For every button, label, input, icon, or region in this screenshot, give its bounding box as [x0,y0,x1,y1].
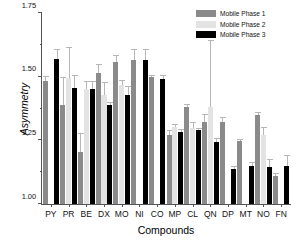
bar [273,176,278,204]
error-bar-cap [284,155,290,156]
bar [66,78,71,204]
error-bar-cap [72,75,78,76]
y-axis-tick [38,76,42,77]
error-bar [163,75,164,79]
x-axis-tick [69,204,70,207]
error-bar [287,155,288,166]
error-bar-cap [172,124,178,125]
bar [214,142,219,204]
legend-label: Mobile Phase 3 [220,31,265,38]
legend-swatch-mobile-phase-3 [196,31,216,38]
x-axis-tick [86,204,87,207]
error-bar [198,128,199,131]
legend-item: Mobile Phase 1 [196,9,265,18]
y-axis-tick [38,203,42,204]
x-axis-tick-label: QN [204,209,217,219]
x-axis-title: Compounds [42,224,290,236]
bar [255,115,260,204]
y-axis-minor-tick [40,44,42,45]
x-axis-tick-label: NO [257,209,270,219]
error-bar [80,133,81,152]
error-bar-cap [143,49,149,50]
y-axis-tick [38,12,42,13]
y-axis-title-wrap: Asymmetry [0,13,14,204]
bar [231,169,236,204]
bar [72,88,77,204]
bar [43,81,48,204]
x-axis-line [41,204,291,205]
legend: Mobile Phase 1 Mobile Phase 2 Mobile Pha… [196,9,265,41]
error-bar [216,138,217,143]
error-bar [193,122,194,128]
error-bar [210,40,211,107]
error-bar-cap [190,122,196,123]
error-bar [175,124,176,127]
bar [131,60,136,204]
bar [60,105,65,204]
error-bar [240,139,241,141]
error-bar [45,76,46,82]
x-axis-tick [51,204,52,207]
error-bar [145,49,146,60]
error-bar-cap [66,47,72,48]
error-bar [204,114,205,122]
error-bar [263,127,264,135]
bar [107,105,112,204]
error-bar [128,86,129,95]
error-bar-cap [184,104,190,105]
error-bar [275,173,276,176]
legend-item: Mobile Phase 2 [196,20,265,29]
bar [202,122,207,204]
error-bar-cap [96,64,102,65]
x-axis-tick [139,204,140,207]
bar [167,135,172,204]
x-axis-tick [193,204,194,207]
error-bar-cap [119,80,125,81]
y-axis-tick [38,139,42,140]
bar [284,166,289,204]
error-bar [104,82,105,94]
error-bar-cap [113,55,119,56]
y-axis-tick-label: 1.75 [22,0,36,9]
bar [149,77,154,204]
error-bar-cap [160,75,166,76]
bar [172,127,177,204]
bar [78,152,83,204]
error-bar-cap [273,173,279,174]
x-axis-tick-label: PY [45,209,56,219]
error-bar [86,81,87,89]
bar [261,135,266,204]
bar [54,59,59,204]
error-bar-cap [255,112,261,113]
error-bar [181,129,182,133]
error-bar [122,80,123,85]
error-bar [269,159,270,167]
x-axis-tick-label: NI [135,209,144,219]
bar [125,95,130,204]
bar [196,130,201,204]
error-bar [98,64,99,73]
error-bar-cap [267,159,273,160]
error-bar [74,75,75,88]
legend-swatch-mobile-phase-2 [196,21,216,28]
error-bar [252,162,253,167]
error-bar [234,166,235,169]
x-axis-tick [157,204,158,207]
x-axis-tick-label: FN [275,209,286,219]
error-bar-cap [220,117,226,118]
bar [143,60,148,204]
x-axis-tick [175,204,176,207]
bar [184,107,189,204]
error-bar-cap [131,49,137,50]
bar [101,95,106,205]
x-axis-tick-label: DX [98,209,110,219]
figure: Asymmetry 1.001.251.501.75PYPRBEDXMONICO… [0,0,298,245]
x-axis-tick-label: DP [222,209,234,219]
x-axis-tick-label: MO [115,209,129,219]
error-bar [69,47,70,79]
x-axis-tick-label: BE [81,209,92,219]
x-axis-tick-label: PR [63,209,75,219]
error-bar [187,104,188,108]
error-bar [92,81,93,89]
error-bar [258,112,259,115]
